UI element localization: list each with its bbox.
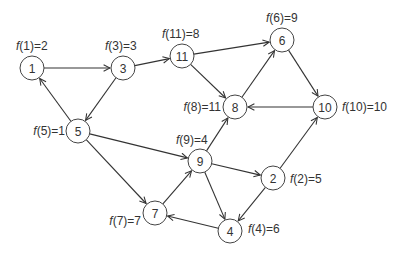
node-7: 7 [143,201,167,225]
f-value-label-2: f(2)=5 [290,172,322,186]
f-value-label-7: f(7)=7 [109,214,141,228]
node-8: 8 [223,95,247,119]
f-value-label-11: f(11)=8 [162,27,200,41]
f-value-label-5: f(5)=1 [33,124,65,138]
edge-11-to-6 [194,42,269,54]
node-2: 2 [261,166,285,190]
edge-2-to-10 [280,118,317,169]
node-label: 5 [75,125,82,139]
edge-6-to-10 [289,50,319,96]
edge-9-to-8 [207,118,228,151]
node-9: 9 [188,149,212,173]
edge-8-to-6 [242,51,275,98]
edge-3-to-11 [135,59,170,66]
edge-2-to-4 [238,187,265,221]
edge-9-to-2 [212,164,261,175]
node-label: 7 [152,207,159,221]
edge-9-to-4 [205,172,225,219]
f-value-label-10: f(10)=10 [342,100,387,114]
node-label: 2 [270,172,277,186]
edge-4-to-7 [168,216,219,228]
f-value-label-1: f(1)=2 [16,39,48,53]
node-10: 10 [313,95,337,119]
node-11: 11 [170,44,194,68]
edge-11-to-8 [191,64,226,98]
node-label: 9 [197,155,204,169]
f-value-label-8: f(8)=11 [184,100,222,114]
edge-3-to-5 [86,78,116,121]
node-label: 10 [318,101,332,115]
graph-diagram: 1311681059274 f(1)=2f(3)=3f(11)=8f(6)=9f… [0,0,402,257]
edge-5-to-9 [90,134,188,158]
edge-5-to-1 [40,79,71,122]
node-1: 1 [20,56,44,80]
node-label: 8 [232,101,239,115]
node-label: 11 [176,50,189,64]
edge-7-to-9 [163,171,192,204]
f-value-label-3: f(3)=3 [105,39,137,53]
node-label: 1 [29,62,36,76]
f-value-label-9: f(9)=4 [176,133,208,147]
edge-5-to-7 [86,140,146,204]
node-label: 6 [279,34,286,48]
node-label: 3 [120,62,127,76]
f-value-label-6: f(6)=9 [266,11,298,25]
node-5: 5 [66,119,90,143]
node-label: 4 [227,225,234,239]
node-4: 4 [218,219,242,243]
node-6: 6 [270,28,294,52]
f-value-label-4: f(4)=6 [248,222,280,236]
node-3: 3 [111,56,135,80]
